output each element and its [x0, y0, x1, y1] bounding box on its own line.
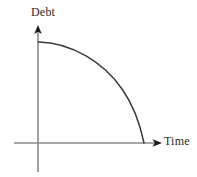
- chart-background: [0, 0, 197, 177]
- debt-over-time-chart: [0, 0, 197, 177]
- y-axis-label: Debt: [31, 5, 55, 20]
- x-axis-label: Time: [164, 134, 190, 149]
